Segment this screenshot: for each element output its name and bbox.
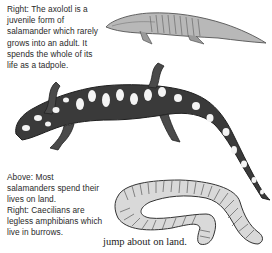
illustrations xyxy=(0,0,272,253)
caecilian-illustration xyxy=(115,180,263,245)
salamander-illustration xyxy=(16,63,270,200)
axolotl-illustration xyxy=(106,13,266,44)
